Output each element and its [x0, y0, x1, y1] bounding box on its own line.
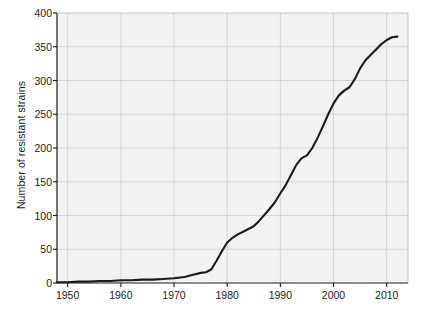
- y-tick-label: 350: [22, 41, 52, 53]
- x-tick-label: 1970: [162, 289, 185, 301]
- x-tick-label: 1990: [269, 289, 292, 301]
- line-chart-plot: [0, 0, 423, 315]
- x-tick-label: 1980: [215, 289, 238, 301]
- x-tick-label: 2000: [322, 289, 345, 301]
- y-tick-label: 50: [22, 243, 52, 255]
- y-tick-label: 150: [22, 176, 52, 188]
- x-tick-label: 1950: [56, 289, 79, 301]
- chart-container: Number of resistant strains 050100150200…: [0, 0, 423, 315]
- x-tick-label: 1960: [109, 289, 132, 301]
- y-tick-label: 100: [22, 210, 52, 222]
- y-tick-label: 400: [22, 7, 52, 19]
- y-tick-label: 200: [22, 142, 52, 154]
- y-tick-label: 0: [22, 277, 52, 289]
- y-tick-label: 300: [22, 75, 52, 87]
- y-tick-label: 250: [22, 108, 52, 120]
- x-tick-label: 2010: [375, 289, 398, 301]
